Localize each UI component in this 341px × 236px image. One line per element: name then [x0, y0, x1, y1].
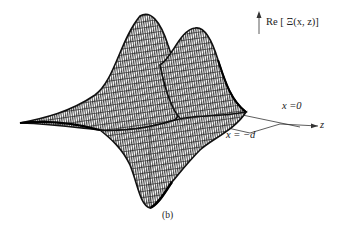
vertical-axis-arrow	[257, 11, 262, 34]
vertical-axis-label: Re [ Ξ(x, z)]	[266, 16, 319, 27]
z-axis	[280, 124, 318, 129]
z-axis-label: z	[320, 119, 324, 130]
wireframe-surface-plot	[0, 0, 341, 236]
boundary-label-xd: x = −d	[226, 129, 255, 140]
boundary-label-x0: x =0	[282, 100, 302, 111]
panel-label: (b)	[162, 210, 173, 220]
mesh-surface	[20, 14, 246, 208]
